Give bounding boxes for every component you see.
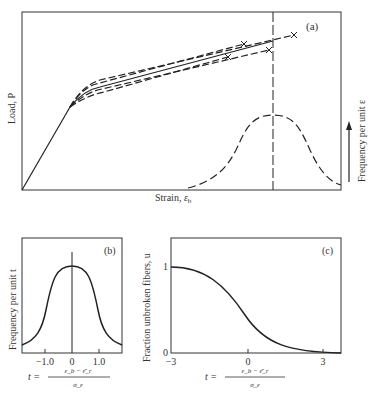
- b-tick-label-p1: 1.0: [93, 356, 106, 367]
- c-fraction-numerator: ε_b − ε̄_r: [242, 367, 269, 375]
- c-tick-label-3: 3: [321, 356, 326, 367]
- panel-c-label: (c): [322, 245, 333, 257]
- branch-2: [70, 44, 244, 107]
- c-ytick-label-0: 0: [163, 347, 168, 358]
- strain-distribution-curve: [188, 115, 341, 188]
- arrow-up-icon: [346, 121, 352, 130]
- panel-c-frame: [171, 238, 341, 353]
- b-fraction-numerator: ε_b − ε̄_r: [65, 367, 92, 375]
- panel-b-label: (b): [104, 245, 116, 257]
- figure: (a) Load, P Strain, εb Frequency per uni…: [0, 0, 371, 400]
- a-right-axis-label: Frequency per unit ε: [356, 100, 367, 182]
- b-y-axis-label: Frequency per unit t: [7, 269, 18, 350]
- c-t-eq: t =: [205, 371, 217, 382]
- c-survival-curve: [171, 267, 341, 353]
- elastic-line: [22, 107, 70, 190]
- c-fraction-denominator: σ_ε: [250, 381, 260, 389]
- c-tick-label-0: 0: [246, 356, 251, 367]
- b-tick-label-m1: −1.0: [36, 356, 54, 367]
- branch-4: [70, 50, 269, 107]
- c-y-axis-label: Fraction unbroken fibers, u: [141, 253, 152, 362]
- panel-c: (c) −3 0 3 1 0 Fraction unbroken fibers,…: [141, 238, 341, 389]
- panel-a: (a) Load, P Strain, εb Frequency per uni…: [6, 12, 367, 205]
- c-ytick-label-1: 1: [163, 261, 168, 272]
- branch-1: [70, 35, 294, 107]
- panel-a-frame: [22, 12, 341, 190]
- b-t-eq: t =: [28, 371, 40, 382]
- a-x-axis-label: Strain, εb: [155, 192, 192, 205]
- panel-a-label: (a): [306, 20, 319, 33]
- b-fraction-denominator: σ_ε: [73, 381, 83, 389]
- b-tick-label-0: 0: [70, 356, 75, 367]
- a-y-axis-label: Load, P: [6, 92, 17, 124]
- panel-b: (b) −1.0 0 1.0 Frequency per unit t t = …: [7, 238, 122, 389]
- branch-3: [70, 41, 273, 107]
- x-marker-1-icon: [291, 32, 297, 38]
